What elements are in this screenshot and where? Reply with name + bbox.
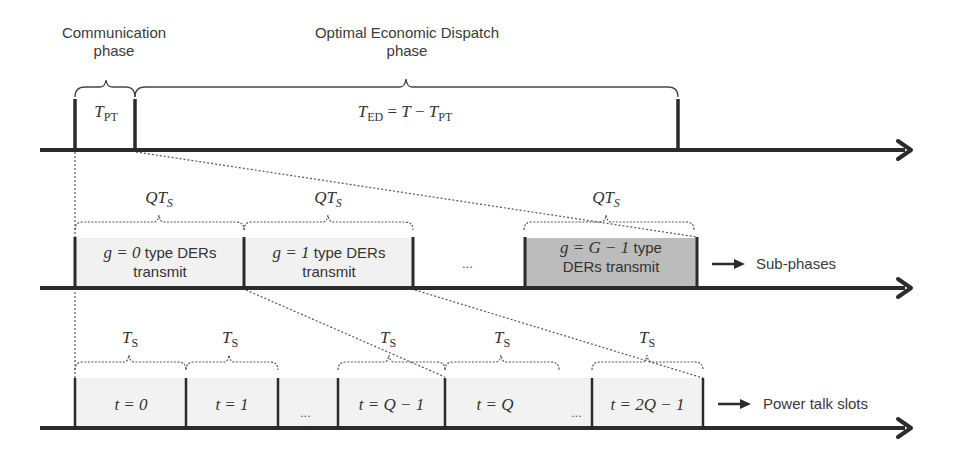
subphase-braces bbox=[75, 215, 694, 230]
power-talk-slots-label: Power talk slots bbox=[763, 395, 868, 413]
phase-braces bbox=[75, 79, 678, 97]
ts-label-0: TS bbox=[110, 328, 150, 351]
communication-label-line1: Communication bbox=[40, 24, 188, 42]
qts-label-1: QTS bbox=[306, 188, 350, 211]
slot-ellipsis-1: ... bbox=[571, 405, 582, 420]
slot-ellipsis-0: ... bbox=[300, 405, 311, 420]
slot-braces bbox=[75, 355, 703, 370]
communication-label-line2: phase bbox=[40, 42, 188, 60]
t-pt-label: TPT bbox=[84, 102, 128, 125]
ts-label-3: TS bbox=[482, 328, 522, 351]
dispatch-label-line1: Optimal Economic Dispatch bbox=[260, 24, 554, 42]
dispatch-phase-label: Optimal Economic Dispatch phase bbox=[260, 24, 554, 60]
subphase-text-last: g = G − 1 type DERs transmit bbox=[528, 238, 694, 276]
subphase-text-1: g = 1 type DERs transmit bbox=[247, 243, 411, 281]
t-ed-label: TED = T − TPT bbox=[340, 102, 470, 125]
ts-label-1: TS bbox=[210, 328, 250, 351]
qts-label-0: QTS bbox=[137, 188, 181, 211]
ts-label-4: TS bbox=[627, 328, 667, 351]
slot-text-1: t = 1 bbox=[186, 395, 278, 415]
diagram-graphics bbox=[0, 0, 961, 463]
slot-text-3: t = Q bbox=[445, 395, 545, 415]
communication-phase-label: Communication phase bbox=[40, 24, 188, 60]
subphase-ellipsis: ... bbox=[462, 256, 473, 271]
slot-text-4: t = 2Q − 1 bbox=[592, 395, 703, 415]
qts-label-last: QTS bbox=[584, 188, 628, 211]
timing-diagram: Communication phase Optimal Economic Dis… bbox=[0, 0, 961, 463]
subphase-text-0: g = 0 type DERs transmit bbox=[78, 243, 242, 281]
slot-text-2: t = Q − 1 bbox=[338, 395, 445, 415]
sub-phases-label: Sub-phases bbox=[756, 255, 836, 273]
ts-label-2: TS bbox=[368, 328, 408, 351]
slot-text-0: t = 0 bbox=[76, 395, 186, 415]
label-arrows bbox=[712, 259, 751, 409]
dispatch-label-line2: phase bbox=[260, 42, 554, 60]
